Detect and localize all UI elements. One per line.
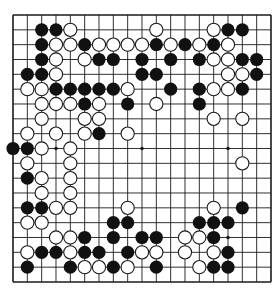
black-stone xyxy=(207,38,220,51)
black-stone xyxy=(21,172,34,185)
black-stone xyxy=(150,231,163,244)
black-stone xyxy=(78,231,91,244)
black-stone xyxy=(64,83,77,96)
white-stone xyxy=(49,38,62,51)
white-stone xyxy=(221,68,234,81)
black-stone xyxy=(135,231,148,244)
black-stone xyxy=(92,83,105,96)
white-stone xyxy=(107,38,120,51)
black-stone xyxy=(121,97,134,110)
white-stone xyxy=(236,68,249,81)
black-stone xyxy=(21,142,34,155)
white-stone xyxy=(78,112,91,125)
black-stone xyxy=(35,68,48,81)
white-stone xyxy=(150,246,163,259)
black-stone xyxy=(150,68,163,81)
black-stone xyxy=(35,38,48,51)
white-stone xyxy=(64,38,77,51)
star-point xyxy=(226,147,230,151)
white-stone xyxy=(92,97,105,110)
black-stone xyxy=(193,83,206,96)
go-board[interactable] xyxy=(0,0,279,292)
star-point xyxy=(226,236,230,240)
white-stone xyxy=(193,38,206,51)
white-stone xyxy=(121,38,134,51)
black-stone xyxy=(107,53,120,66)
star-point xyxy=(140,147,144,151)
black-stone xyxy=(78,38,91,51)
white-stone xyxy=(35,186,48,199)
white-stone xyxy=(64,142,77,155)
black-stone xyxy=(21,261,34,274)
white-stone xyxy=(92,112,105,125)
black-stone xyxy=(49,246,62,259)
star-point xyxy=(54,147,58,151)
black-stone xyxy=(236,201,249,214)
white-stone xyxy=(236,157,249,170)
white-stone xyxy=(178,231,191,244)
white-stone xyxy=(21,216,34,229)
white-stone xyxy=(92,38,105,51)
black-stone xyxy=(107,261,120,274)
black-stone xyxy=(250,68,263,81)
black-stone xyxy=(78,83,91,96)
white-stone xyxy=(64,23,77,36)
white-stone xyxy=(35,216,48,229)
white-stone xyxy=(35,112,48,125)
white-stone xyxy=(35,172,48,185)
white-stone xyxy=(64,97,77,110)
white-stone xyxy=(64,157,77,170)
white-stone xyxy=(35,142,48,155)
black-stone xyxy=(107,216,120,229)
white-stone xyxy=(78,127,91,140)
black-stone xyxy=(107,231,120,244)
black-stone xyxy=(164,83,177,96)
black-stone xyxy=(221,216,234,229)
black-stone xyxy=(193,97,206,110)
white-stone xyxy=(221,53,234,66)
black-stone xyxy=(35,246,48,259)
black-stone xyxy=(207,261,220,274)
black-stone xyxy=(135,53,148,66)
white-stone xyxy=(49,97,62,110)
white-stone xyxy=(178,246,191,259)
black-stone xyxy=(49,23,62,36)
black-stone xyxy=(207,216,220,229)
white-stone xyxy=(64,246,77,259)
white-stone xyxy=(21,127,34,140)
black-stone xyxy=(221,261,234,274)
black-stone xyxy=(35,201,48,214)
black-stone xyxy=(49,83,62,96)
black-stone xyxy=(92,53,105,66)
black-stone xyxy=(236,53,249,66)
black-stone xyxy=(164,53,177,66)
black-stone xyxy=(64,261,77,274)
white-stone xyxy=(207,23,220,36)
white-stone xyxy=(64,172,77,185)
white-stone xyxy=(49,201,62,214)
white-stone xyxy=(207,83,220,96)
black-stone xyxy=(121,216,134,229)
white-stone xyxy=(49,127,62,140)
white-stone xyxy=(35,83,48,96)
white-stone xyxy=(193,261,206,274)
white-stone xyxy=(121,83,134,96)
white-stone xyxy=(207,246,220,259)
black-stone xyxy=(21,201,34,214)
white-stone xyxy=(236,112,249,125)
black-stone xyxy=(150,261,163,274)
black-stone xyxy=(78,97,91,110)
black-stone xyxy=(92,127,105,140)
white-stone xyxy=(135,38,148,51)
black-stone xyxy=(250,53,263,66)
white-stone xyxy=(207,112,220,125)
black-stone xyxy=(236,23,249,36)
white-stone xyxy=(49,53,62,66)
white-stone xyxy=(35,97,48,110)
white-stone xyxy=(21,157,34,170)
black-stone xyxy=(193,53,206,66)
white-stone xyxy=(121,261,134,274)
white-stone xyxy=(221,83,234,96)
white-stone xyxy=(121,127,134,140)
black-stone xyxy=(150,38,163,51)
